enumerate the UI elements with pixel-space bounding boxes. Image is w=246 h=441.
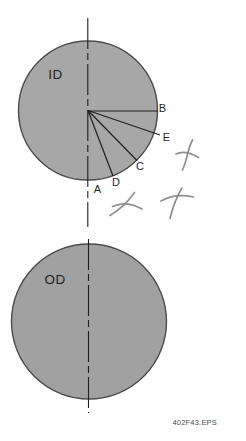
x-mark-stroke — [113, 204, 143, 209]
od-circle-group: OD — [12, 239, 167, 413]
x-mark-stroke — [170, 188, 182, 219]
point-label-a: A — [94, 183, 102, 195]
point-label-e: E — [163, 131, 170, 143]
point-label-b: B — [159, 102, 166, 114]
x-mark-1 — [176, 140, 199, 170]
id-label: ID — [48, 67, 63, 82]
point-label-d: D — [112, 176, 120, 188]
id-circle-group: ID B E C D A — [19, 18, 171, 227]
x-mark-stroke — [183, 140, 193, 170]
point-label-c: C — [136, 160, 144, 172]
diagram-canvas: ID B E C D A OD — [0, 0, 246, 441]
od-label: OD — [44, 272, 65, 287]
x-mark-2 — [110, 193, 142, 216]
x-mark-3 — [161, 188, 194, 219]
file-reference: 402F43.EPS — [172, 418, 217, 427]
figure: ID B E C D A OD — [0, 0, 246, 441]
